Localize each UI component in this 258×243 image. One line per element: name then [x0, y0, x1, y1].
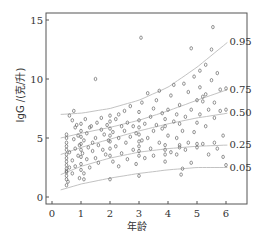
data-point: [109, 134, 112, 137]
data-point: [123, 129, 126, 132]
scatter-chart: 0123456 051015 0.950.750.500.250.05 年龄 I…: [0, 0, 258, 243]
data-points: [65, 25, 227, 187]
data-point: [164, 143, 167, 146]
data-point: [68, 166, 71, 169]
data-point: [207, 153, 210, 156]
data-point: [225, 163, 228, 166]
data-point: [140, 36, 143, 39]
data-point: [181, 129, 184, 132]
data-point: [210, 48, 213, 51]
data-point: [138, 154, 141, 157]
data-point: [73, 138, 76, 141]
data-point: [96, 121, 99, 124]
data-point: [115, 145, 118, 148]
data-point: [81, 152, 84, 155]
data-point: [178, 122, 181, 125]
y-tick-label: 15: [30, 15, 43, 26]
data-point: [167, 134, 170, 137]
data-point: [138, 133, 141, 136]
data-point: [83, 139, 86, 142]
data-point: [77, 154, 80, 157]
data-point: [164, 160, 167, 163]
data-point: [65, 148, 68, 151]
data-point: [83, 172, 86, 175]
data-point: [80, 162, 83, 165]
data-point: [146, 136, 149, 139]
data-point: [71, 172, 74, 175]
data-point: [202, 142, 205, 145]
data-point: [146, 92, 149, 95]
data-point: [80, 135, 83, 138]
data-point: [83, 178, 86, 181]
data-point: [222, 134, 225, 137]
data-point: [65, 153, 68, 156]
data-point: [117, 113, 120, 116]
data-point: [104, 153, 107, 156]
data-point: [65, 141, 68, 144]
data-point: [117, 165, 120, 168]
data-point: [199, 113, 202, 116]
data-point: [106, 123, 109, 126]
data-point: [212, 25, 215, 28]
quantile-curve-0.95: [61, 42, 228, 114]
data-point: [138, 145, 141, 148]
data-point: [67, 180, 70, 183]
data-point: [80, 122, 83, 125]
data-point: [71, 119, 74, 122]
data-point: [129, 104, 132, 107]
data-point: [138, 174, 141, 177]
data-point: [65, 133, 68, 136]
data-point: [138, 110, 141, 113]
data-point: [120, 125, 123, 128]
data-point: [216, 147, 219, 150]
data-point: [109, 147, 112, 150]
data-point: [84, 117, 87, 120]
data-point: [152, 129, 155, 132]
data-point: [225, 108, 228, 111]
data-point: [222, 155, 225, 158]
data-point: [65, 156, 68, 159]
data-point: [199, 69, 202, 72]
data-point: [216, 71, 219, 74]
data-point: [80, 148, 83, 151]
x-tick-label: 6: [223, 208, 229, 219]
data-point: [141, 139, 144, 142]
data-point: [132, 148, 135, 151]
data-point: [213, 101, 216, 104]
data-point: [204, 63, 207, 66]
data-point: [204, 125, 207, 128]
data-point: [213, 116, 216, 119]
curve-label-0.50: 0.50: [229, 107, 251, 118]
data-point: [207, 108, 210, 111]
data-point: [210, 79, 213, 82]
x-tick-label: 5: [194, 208, 200, 219]
data-point: [184, 148, 187, 151]
x-tick-label: 3: [136, 208, 142, 219]
data-point: [126, 158, 129, 161]
data-point: [193, 75, 196, 78]
data-point: [65, 145, 68, 148]
data-point: [175, 153, 178, 156]
data-point: [87, 146, 90, 149]
data-point: [152, 107, 155, 110]
x-tick-label: 1: [78, 208, 84, 219]
data-point: [109, 154, 112, 157]
data-point: [144, 156, 147, 159]
data-point: [219, 109, 222, 112]
data-point: [77, 134, 80, 137]
data-point: [213, 141, 216, 144]
data-point: [164, 117, 167, 120]
data-point: [161, 127, 164, 130]
data-point: [74, 165, 77, 168]
data-point: [187, 90, 190, 93]
data-point: [123, 109, 126, 112]
data-point: [183, 82, 186, 85]
data-point: [135, 162, 138, 165]
data-point: [80, 168, 83, 171]
data-point: [202, 100, 205, 103]
data-point: [138, 140, 141, 143]
data-point: [65, 160, 68, 163]
data-point: [184, 115, 187, 118]
data-point: [164, 153, 167, 156]
data-point: [180, 173, 183, 176]
